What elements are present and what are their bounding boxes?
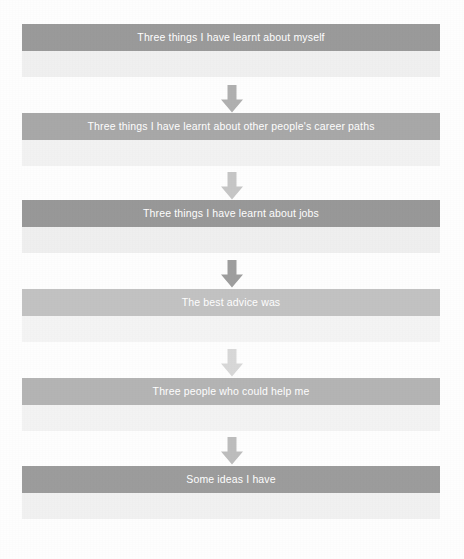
flow-connector-2 bbox=[217, 171, 247, 201]
flow-connector-4 bbox=[217, 348, 247, 378]
flow-step-writing-area-3[interactable] bbox=[22, 227, 440, 253]
flow-step-header-6: Some ideas I have bbox=[22, 466, 440, 493]
arrow-down-icon bbox=[217, 436, 247, 466]
flow-step-label-1: Three things I have learnt about myself bbox=[137, 32, 324, 43]
flow-step-label-6: Some ideas I have bbox=[186, 474, 276, 485]
flow-step-2[interactable]: Three things I have learnt about other p… bbox=[22, 113, 440, 166]
flowchart-canvas: Three things I have learnt about myselfT… bbox=[0, 0, 464, 559]
flow-step-header-1: Three things I have learnt about myself bbox=[22, 24, 440, 51]
flow-connector-1 bbox=[217, 84, 247, 114]
flow-step-header-5: Three people who could help me bbox=[22, 378, 440, 405]
flow-step-writing-area-4[interactable] bbox=[22, 316, 440, 342]
flow-step-writing-area-6[interactable] bbox=[22, 493, 440, 519]
flow-step-label-3: Three things I have learnt about jobs bbox=[143, 208, 319, 219]
flow-step-label-2: Three things I have learnt about other p… bbox=[87, 121, 374, 132]
arrow-down-icon bbox=[217, 348, 247, 378]
flow-connector-3 bbox=[217, 259, 247, 289]
flow-step-3[interactable]: Three things I have learnt about jobs bbox=[22, 200, 440, 253]
flow-step-writing-area-5[interactable] bbox=[22, 405, 440, 431]
arrow-down-icon bbox=[217, 84, 247, 114]
flow-step-writing-area-1[interactable] bbox=[22, 51, 440, 77]
flow-step-1[interactable]: Three things I have learnt about myself bbox=[22, 24, 440, 77]
flow-connector-5 bbox=[217, 436, 247, 466]
flow-step-label-5: Three people who could help me bbox=[153, 386, 310, 397]
flow-step-6[interactable]: Some ideas I have bbox=[22, 466, 440, 519]
flow-step-label-4: The best advice was bbox=[182, 297, 281, 308]
flow-step-header-2: Three things I have learnt about other p… bbox=[22, 113, 440, 140]
flow-step-header-4: The best advice was bbox=[22, 289, 440, 316]
arrow-down-icon bbox=[217, 259, 247, 289]
arrow-down-icon bbox=[217, 171, 247, 201]
flow-step-header-3: Three things I have learnt about jobs bbox=[22, 200, 440, 227]
flow-step-writing-area-2[interactable] bbox=[22, 140, 440, 166]
flow-step-4[interactable]: The best advice was bbox=[22, 289, 440, 342]
flow-step-5[interactable]: Three people who could help me bbox=[22, 378, 440, 431]
